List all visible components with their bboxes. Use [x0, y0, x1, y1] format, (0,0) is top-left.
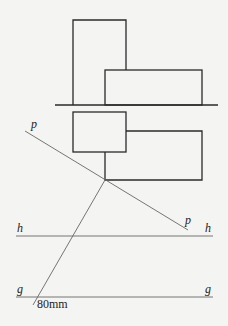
- projection-ray: [33, 180, 105, 305]
- wide-block-plan: [105, 131, 202, 180]
- label-h-right: h: [205, 221, 211, 235]
- label-p-top: p: [30, 117, 37, 131]
- dimension-label: 80mm: [37, 297, 68, 311]
- tall-block-front: [73, 20, 126, 105]
- label-g-right: g: [205, 282, 211, 296]
- label-p-bottom: p: [184, 213, 191, 227]
- wide-block-front: [105, 70, 202, 105]
- label-h-left: h: [17, 221, 23, 235]
- tall-block-plan: [73, 112, 126, 152]
- front-view: [55, 20, 218, 105]
- construction-lines: [16, 131, 213, 305]
- projection-diagram: p p h h g g 80mm: [0, 0, 228, 326]
- top-view: [73, 112, 202, 180]
- label-g-left: g: [17, 282, 23, 296]
